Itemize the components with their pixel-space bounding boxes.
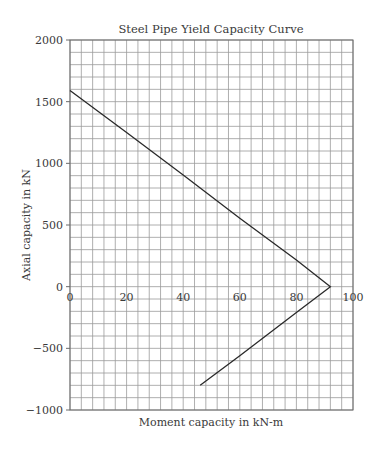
y-tick-label: −500: [33, 342, 63, 355]
y-tick-label: 500: [42, 219, 63, 232]
chart: Steel Pipe Yield Capacity Curve 20001500…: [0, 0, 382, 451]
x-tick-label: 60: [233, 291, 247, 304]
chart-title: Steel Pipe Yield Capacity Curve: [118, 22, 303, 36]
y-tick-label: −1000: [26, 404, 63, 417]
grid-lines: [70, 40, 353, 410]
x-axis-label: Moment capacity in kN-m: [139, 416, 284, 429]
x-tick-label: 20: [120, 291, 134, 304]
y-tick-label: 2000: [35, 34, 63, 47]
y-axis-label: Axial capacity in kN: [20, 169, 33, 282]
yield-capacity-curve: [70, 91, 330, 386]
y-tick-label: 1500: [35, 96, 63, 109]
x-tick-label: 100: [343, 291, 364, 304]
y-tick-label: 1000: [35, 157, 63, 170]
x-tick-label: 0: [67, 291, 74, 304]
x-tick-label: 80: [289, 291, 303, 304]
y-tick-label: 0: [56, 281, 63, 294]
x-tick-label: 40: [176, 291, 190, 304]
